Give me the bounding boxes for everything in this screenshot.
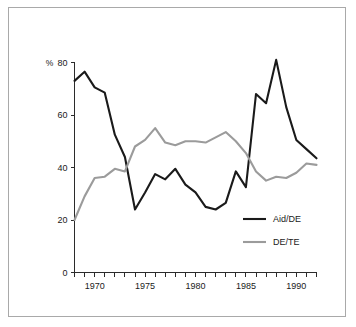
line-chart: 020406080%19701975198019851990Aid/DEDE/T… <box>0 0 356 327</box>
legend-label-de-te: DE/TE <box>273 237 300 247</box>
x-tick-label: 1975 <box>135 281 155 291</box>
x-tick-label: 1970 <box>85 281 105 291</box>
y-tick-label: 20 <box>57 215 67 225</box>
y-tick-label: 60 <box>57 110 67 120</box>
x-tick-label: 1985 <box>236 281 256 291</box>
series-line-aid-de <box>75 60 317 210</box>
y-tick-label: 40 <box>57 163 67 173</box>
y-axis-unit-label: % <box>46 58 54 68</box>
series-line-de-te <box>75 128 317 220</box>
x-tick-label: 1980 <box>185 281 205 291</box>
y-tick-label: 0 <box>62 268 67 278</box>
legend-label-aid-de: Aid/DE <box>273 214 301 224</box>
y-tick-label: 80 <box>57 58 67 68</box>
chart-stage: 020406080%19701975198019851990Aid/DEDE/T… <box>0 0 356 327</box>
x-tick-label: 1990 <box>286 281 306 291</box>
